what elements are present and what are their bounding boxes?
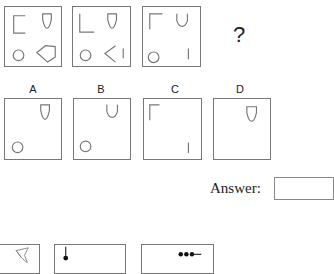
option-d-shapes	[214, 99, 270, 159]
dot-icon	[184, 252, 188, 256]
dot-icon	[179, 252, 183, 256]
question-mark: ?	[233, 22, 245, 48]
corner-top-left-icon	[150, 105, 160, 120]
shield-cup-icon	[41, 105, 50, 119]
preview-2-shapes	[55, 245, 125, 273]
option-label-c: C	[165, 83, 185, 95]
u-cup-icon	[177, 14, 188, 27]
answer-input[interactable]	[274, 177, 334, 200]
option-label-d: D	[230, 83, 250, 95]
circle-icon	[12, 142, 23, 153]
panel-1-shapes	[5, 7, 61, 66]
hexagon-icon	[37, 46, 55, 62]
sequence-panel-1	[4, 6, 62, 67]
bracket-icon	[14, 16, 26, 33]
circle-icon	[148, 52, 159, 63]
option-a-shapes	[5, 99, 61, 159]
circle-icon	[13, 50, 24, 61]
preview-1-shapes	[0, 245, 39, 273]
preview-panel-1	[0, 244, 40, 274]
dot-icon	[63, 256, 68, 261]
panel-2-shapes	[73, 7, 130, 66]
panel-3-shapes	[143, 7, 200, 66]
option-c-shapes	[144, 99, 201, 159]
circle-icon	[80, 141, 91, 152]
sequence-panel-2	[72, 6, 131, 67]
corner-top-left-icon	[150, 14, 163, 29]
preview-panel-3	[141, 244, 214, 274]
chevron-left-icon	[105, 46, 116, 62]
shield-cup-icon	[43, 14, 52, 28]
circle-icon	[80, 50, 91, 61]
answer-label: Answer:	[210, 180, 261, 197]
star-shape-icon	[16, 248, 28, 263]
corner-bottom-left-icon	[80, 14, 94, 32]
option-label-a: A	[23, 83, 43, 95]
shield-cup-icon	[108, 14, 117, 28]
u-cup-icon	[107, 105, 118, 118]
option-panel-c[interactable]	[143, 98, 202, 160]
sequence-panel-3	[142, 6, 201, 67]
preview-3-shapes	[142, 245, 213, 273]
preview-panel-2	[54, 244, 126, 274]
option-panel-b[interactable]	[73, 98, 131, 160]
shield-cup-icon	[247, 107, 257, 121]
option-panel-a[interactable]	[4, 98, 62, 160]
option-b-shapes	[74, 99, 130, 159]
option-label-b: B	[91, 83, 111, 95]
option-panel-d[interactable]	[213, 98, 271, 160]
